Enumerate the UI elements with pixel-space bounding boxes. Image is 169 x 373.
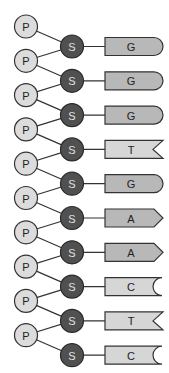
- sugar-label: S: [68, 75, 75, 87]
- phosphate-label: P: [22, 227, 29, 239]
- base-label: A: [127, 213, 135, 225]
- base-label: G: [127, 110, 136, 122]
- base-label: A: [127, 247, 135, 259]
- phosphate-label: P: [22, 90, 29, 102]
- base-label: C: [127, 350, 135, 362]
- sugar-label: S: [68, 41, 75, 53]
- base-label: G: [127, 178, 136, 190]
- phosphate-label: P: [22, 295, 29, 307]
- phosphate-label: P: [22, 330, 29, 342]
- sugar-label: S: [68, 178, 75, 190]
- sugar-label: S: [68, 350, 75, 362]
- nodes-layer: PSGPSGPSGPSTPSGPSAPSAPSCPSTPSC: [15, 15, 164, 367]
- phosphate-label: P: [22, 124, 29, 136]
- phosphate-label: P: [22, 158, 29, 170]
- phosphate-label: P: [22, 55, 29, 67]
- base-label: T: [128, 315, 135, 327]
- base-label: C: [127, 281, 135, 293]
- phosphate-label: P: [22, 261, 29, 273]
- dna-strand-diagram: PSGPSGPSGPSTPSGPSAPSAPSCPSTPSC: [0, 0, 169, 373]
- base-label: G: [127, 75, 136, 87]
- base-label: G: [127, 41, 136, 53]
- base-label: T: [128, 144, 135, 156]
- sugar-label: S: [68, 213, 75, 225]
- sugar-label: S: [68, 281, 75, 293]
- nucleotide: PSG: [15, 15, 164, 58]
- sugar-label: S: [68, 110, 75, 122]
- phosphate-label: P: [22, 193, 29, 205]
- phosphate-label: P: [22, 21, 29, 33]
- sugar-label: S: [68, 315, 75, 327]
- sugar-label: S: [68, 247, 75, 259]
- sugar-label: S: [68, 144, 75, 156]
